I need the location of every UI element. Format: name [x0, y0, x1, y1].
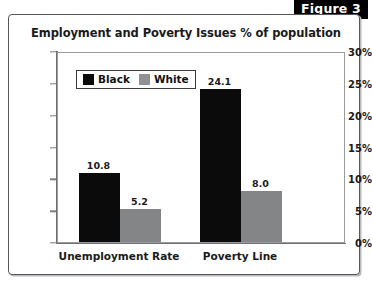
bar-black-unemployment-rate	[79, 173, 120, 242]
bar-white-poverty-line	[241, 191, 282, 242]
y-tick-mark	[50, 51, 56, 52]
category-label: Unemployment Rate	[59, 250, 180, 262]
legend-swatch-white-icon	[139, 74, 150, 85]
y-tick-mark	[50, 179, 56, 180]
bar-white-unemployment-rate	[120, 209, 161, 242]
bar-value-label: 24.1	[208, 76, 231, 87]
bar-value-label: 8.0	[252, 178, 269, 189]
legend-item-black: Black	[83, 73, 130, 85]
chart-legend: Black White	[76, 70, 196, 89]
legend-label-black: Black	[98, 73, 130, 85]
category-label: Poverty Line	[203, 250, 277, 262]
y-tick-mark	[50, 115, 56, 116]
y-tick-mark	[50, 210, 56, 211]
legend-item-white: White	[139, 73, 189, 85]
bar-value-label: 10.8	[87, 160, 110, 171]
bar-value-label: 5.2	[131, 196, 148, 207]
legend-swatch-black-icon	[83, 74, 94, 85]
y-tick-mark	[50, 83, 56, 84]
bar-black-poverty-line	[200, 89, 241, 242]
legend-label-white: White	[154, 73, 189, 85]
chart-title: Employment and Poverty Issues % of popul…	[0, 26, 372, 40]
y-tick-mark	[50, 242, 56, 243]
y-tick-mark	[50, 147, 56, 148]
